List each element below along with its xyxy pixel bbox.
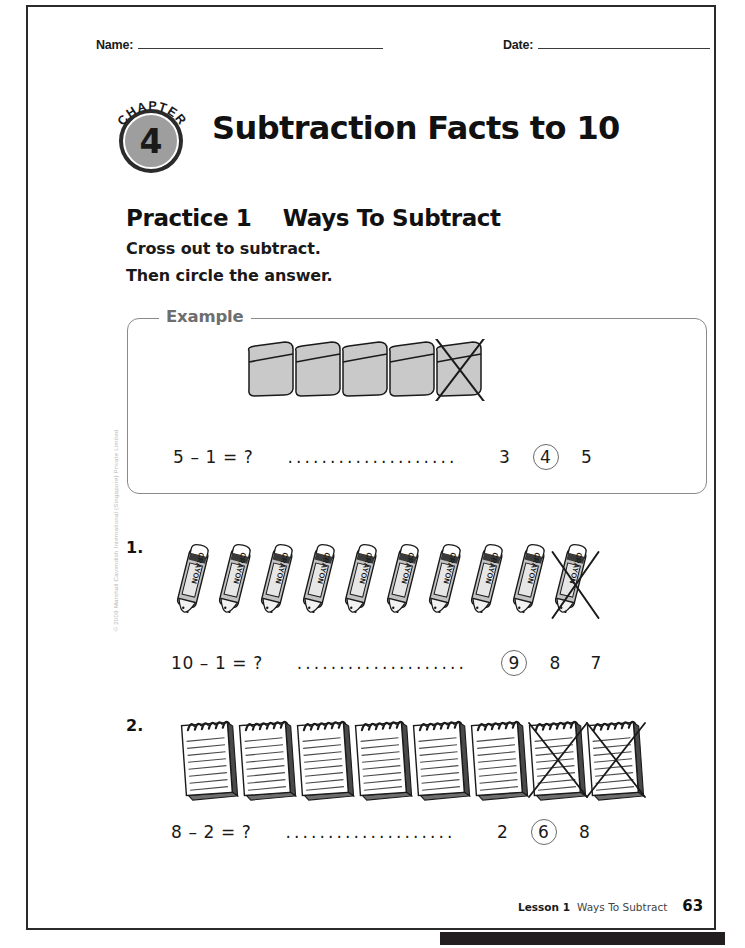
question-1-answer-row: 10 – 1 = ? .................... 987 [171, 650, 609, 676]
worksheet-page: Name: Date: 4 CHAPTER Subtraction Facts … [26, 5, 716, 930]
question-2-choices[interactable]: 268 [490, 819, 598, 845]
chapter-word-arc-icon: CHAPTER [114, 99, 190, 175]
instruction-line-2: Then circle the answer. [126, 266, 686, 285]
notepad-illustration-row [180, 712, 650, 806]
date-label: Date: [503, 38, 533, 52]
question-1-choices[interactable]: 987 [501, 650, 609, 676]
practice-title: Ways To Subtract [283, 205, 501, 231]
practice-heading: Practice 1 Ways To Subtract [126, 205, 686, 231]
instruction-line-1: Cross out to subtract. [126, 239, 686, 258]
question-1-option-8[interactable]: 8 [542, 650, 568, 676]
example-choices[interactable]: 345 [492, 444, 600, 470]
page-footer: Lesson 1 Ways To Subtract 63 [518, 897, 703, 915]
question-2-number: 2. [126, 716, 143, 735]
example-dot-leader: .................... [287, 447, 457, 467]
practice-label: Practice 1 [126, 205, 251, 231]
chapter-header: 4 CHAPTER Subtraction Facts to 10 [114, 93, 674, 175]
page-edge-shadow [440, 932, 725, 945]
question-1-option-7[interactable]: 7 [583, 650, 609, 676]
question-2-answer-row: 8 – 2 = ? .................... 268 [171, 819, 598, 845]
question-2-equation: 8 – 2 = ? [171, 822, 251, 842]
example-option-3[interactable]: 3 [492, 444, 518, 470]
question-2-option-6-circled[interactable]: 6 [531, 819, 557, 845]
name-write-line[interactable] [138, 37, 383, 49]
question-1-number: 1. [126, 538, 143, 557]
name-field-group[interactable]: Name: [96, 37, 383, 52]
example-answer-row: 5 – 1 = ? .................... 345 [173, 444, 600, 470]
example-label: Example [159, 307, 251, 326]
name-date-row: Name: Date: [96, 37, 696, 61]
question-2-dot-leader: .................... [285, 822, 455, 842]
notepad-group-icon [180, 712, 650, 806]
example-option-4-circled[interactable]: 4 [533, 444, 559, 470]
chapter-word-text: CHAPTER [115, 99, 190, 128]
page-title: Subtraction Facts to 10 [212, 109, 620, 147]
crayon-illustration-row: CRAYONCRAYONCRAYONCRAYONCRAYONCRAYONCRAY… [176, 539, 601, 631]
practice-block: Practice 1 Ways To Subtract Cross out to… [126, 205, 686, 285]
eraser-group-icon [244, 339, 494, 401]
page-number: 63 [682, 897, 703, 915]
example-option-5[interactable]: 5 [574, 444, 600, 470]
date-write-line[interactable] [538, 37, 710, 49]
copyright-notice: © 2009 Marshall Cavendish International … [112, 416, 119, 646]
question-1-equation: 10 – 1 = ? [171, 653, 263, 673]
footer-lesson-label: Lesson 1 [518, 901, 570, 913]
question-1-dot-leader: .................... [297, 653, 467, 673]
eraser-illustration-row [244, 339, 494, 401]
question-2-option-8[interactable]: 8 [572, 819, 598, 845]
question-2-option-2[interactable]: 2 [490, 819, 516, 845]
example-equation: 5 – 1 = ? [173, 447, 253, 467]
date-field-group[interactable]: Date: [503, 37, 710, 52]
chapter-badge: 4 CHAPTER [114, 99, 190, 175]
crayon-group-icon: CRAYONCRAYONCRAYONCRAYONCRAYONCRAYONCRAY… [176, 539, 601, 631]
question-1-option-9-circled[interactable]: 9 [501, 650, 527, 676]
footer-lesson-title: Ways To Subtract [577, 901, 667, 913]
name-label: Name: [96, 38, 133, 52]
